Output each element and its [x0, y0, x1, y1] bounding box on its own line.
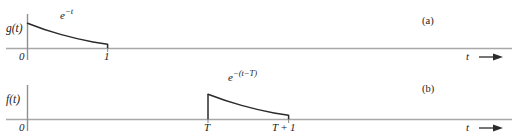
panel-a-label: (a) — [422, 16, 434, 27]
figure-exponential-pulses: g(t) e−t 0 1 t (a) f(t) — [0, 0, 530, 139]
panel-a: g(t) e−t 0 1 t (a) — [0, 0, 530, 66]
panel-a-curve-label: e−t — [60, 10, 73, 21]
panel-a-axis-label: t — [466, 51, 469, 62]
panel-a-function-label: g(t) — [6, 23, 23, 35]
panel-a-plot — [0, 0, 530, 66]
arrow-right-icon — [493, 124, 503, 131]
panel-b-tick-start: T — [204, 122, 210, 133]
panel-b-tick-end: T + 1 — [272, 122, 295, 133]
panel-b-tick-zero: 0 — [19, 122, 25, 133]
panel-b-plot — [0, 66, 530, 139]
panel-a-tick-end: 1 — [104, 51, 110, 62]
arrow-right-icon — [493, 53, 503, 60]
curve-decay-b — [208, 94, 289, 115]
panel-b-label: (b) — [422, 84, 434, 95]
panel-b: f(t) e−(t−T) 0 T T + 1 t (b) — [0, 66, 530, 139]
panel-a-tick-zero: 0 — [19, 51, 25, 62]
curve-decay-a — [28, 23, 108, 44]
panel-b-axis-label: t — [466, 122, 469, 133]
panel-a-curve-exponent: −t — [65, 6, 73, 16]
panel-b-curve-label: e−(t−T) — [228, 72, 257, 83]
panel-b-curve-exponent: −(t−T) — [233, 68, 257, 78]
panel-b-function-label: f(t) — [6, 94, 20, 106]
